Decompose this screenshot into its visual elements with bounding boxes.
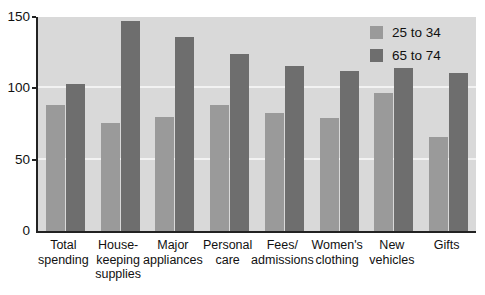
y-axis-tick-label: 0 bbox=[0, 223, 30, 238]
bar bbox=[449, 73, 468, 231]
bar bbox=[46, 105, 65, 231]
bar bbox=[101, 123, 120, 231]
bar bbox=[230, 54, 249, 231]
bar bbox=[210, 105, 229, 231]
bar bbox=[265, 113, 284, 231]
y-axis-tick-label: 150 bbox=[0, 9, 30, 24]
x-axis-labels: Total spendingHouse- keeping suppliesMaj… bbox=[36, 238, 476, 295]
legend-swatch-icon bbox=[370, 26, 383, 39]
bar bbox=[66, 84, 85, 231]
legend: 25 to 34 65 to 74 bbox=[370, 24, 470, 70]
bar bbox=[121, 21, 140, 231]
bar-chart: 050100150 Total spendingHouse- keeping s… bbox=[0, 0, 485, 295]
y-axis-tick-label: 50 bbox=[0, 152, 30, 167]
bar bbox=[429, 137, 448, 231]
bar bbox=[340, 71, 359, 231]
bar bbox=[285, 66, 304, 231]
bar bbox=[394, 68, 413, 231]
bar bbox=[374, 93, 393, 231]
bar bbox=[175, 37, 194, 231]
legend-swatch-icon bbox=[370, 49, 383, 62]
bar bbox=[320, 118, 339, 231]
x-axis-tick-label: Gifts bbox=[413, 238, 480, 253]
legend-item: 65 to 74 bbox=[370, 47, 470, 66]
bar bbox=[155, 117, 174, 231]
y-axis-tick-label: 100 bbox=[0, 80, 30, 95]
legend-item: 25 to 34 bbox=[370, 24, 470, 43]
legend-label: 65 to 74 bbox=[392, 47, 441, 64]
legend-label: 25 to 34 bbox=[392, 24, 441, 41]
